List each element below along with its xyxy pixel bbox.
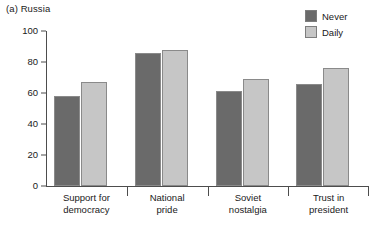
legend-label-never: Never xyxy=(322,11,347,22)
plot-area xyxy=(46,31,368,186)
x-category-label-line: Soviet xyxy=(208,192,289,204)
bar-group xyxy=(288,31,369,186)
x-category-label: Nationalpride xyxy=(127,192,208,215)
bar-daily xyxy=(81,82,107,186)
x-category-separator xyxy=(208,187,209,196)
y-tick-label: 80 xyxy=(27,57,38,67)
x-category-label-line: National xyxy=(127,192,208,204)
x-category-label: Trust inpresident xyxy=(288,192,369,215)
x-category-label-line: democracy xyxy=(46,204,127,216)
x-category-label-line: Trust in xyxy=(288,192,369,204)
y-tick-label: 0 xyxy=(33,181,38,191)
x-axis-end-tick xyxy=(368,187,369,196)
panel-title: (a) Russia xyxy=(6,3,50,15)
bar-group xyxy=(208,31,289,186)
bar-daily xyxy=(243,79,269,186)
x-category-label: Support fordemocracy xyxy=(46,192,127,215)
x-category-label-line: Support for xyxy=(46,192,127,204)
bar-daily xyxy=(323,68,349,186)
bar-never xyxy=(296,84,322,186)
bar-group xyxy=(127,31,208,186)
bar-never xyxy=(216,91,242,186)
y-tick-label: 60 xyxy=(27,88,38,98)
x-category-label-line: pride xyxy=(127,204,208,216)
x-category: Sovietnostalgia xyxy=(208,187,289,231)
legend-item-never: Never xyxy=(305,10,347,22)
x-category: Support fordemocracy xyxy=(46,187,127,231)
x-category: Trust inpresident xyxy=(288,187,369,231)
bar-never xyxy=(135,53,161,186)
x-axis-categories: Support fordemocracyNationalprideSovietn… xyxy=(46,187,369,231)
y-tick-label: 40 xyxy=(27,119,38,129)
x-category-label: Sovietnostalgia xyxy=(208,192,289,215)
bar-group xyxy=(46,31,127,186)
x-category-label-line: nostalgia xyxy=(208,204,289,216)
x-category-separator xyxy=(288,187,289,196)
y-tick-label: 20 xyxy=(27,150,38,160)
x-category: Nationalpride xyxy=(127,187,208,231)
legend-swatch-never xyxy=(305,10,317,22)
bar-daily xyxy=(162,50,188,186)
x-category-label-line: president xyxy=(288,204,369,216)
bar-never xyxy=(54,96,80,186)
x-category-separator xyxy=(127,187,128,196)
y-tick-label: 100 xyxy=(22,26,38,36)
